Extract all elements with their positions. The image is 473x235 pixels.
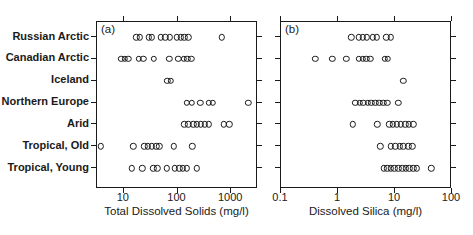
data-point-circle — [210, 99, 217, 106]
data-point-circle — [348, 34, 355, 41]
data-point-circle — [148, 34, 155, 41]
data-point-circle — [312, 56, 319, 63]
category-tick — [91, 123, 96, 124]
data-point-circle — [97, 143, 104, 150]
x-axis-tick-label: 0.1 — [272, 191, 287, 203]
category-tick — [257, 102, 262, 103]
panel-b-plot-area: (b) — [280, 21, 451, 188]
data-point-circle — [226, 121, 233, 128]
data-point-circle — [349, 121, 356, 128]
category-tick — [257, 167, 262, 168]
x-axis-tick-label: 10 — [388, 191, 400, 203]
data-point-circle — [140, 56, 147, 63]
data-point-circle — [185, 34, 192, 41]
x-axis-tick — [394, 16, 395, 21]
category-tick — [91, 58, 96, 59]
x-axis-tick-label: 10 — [117, 191, 129, 203]
category-tick — [275, 167, 280, 168]
category-tick — [91, 80, 96, 81]
x-axis-title-a: Total Dissolved Solids (mg/l) — [96, 205, 257, 217]
category-label: Arid — [0, 117, 89, 129]
data-point-circle — [168, 77, 175, 84]
data-point-circle — [164, 165, 171, 172]
category-tick — [91, 36, 96, 37]
category-tick — [275, 58, 280, 59]
data-point-circle — [194, 165, 201, 172]
category-tick — [275, 123, 280, 124]
data-point-circle — [409, 143, 416, 150]
strip-plot-figure: Russian ArcticCanadian ArcticIcelandNort… — [0, 0, 473, 235]
data-point-circle — [150, 56, 157, 63]
category-tick — [91, 145, 96, 146]
data-point-circle — [189, 99, 196, 106]
data-point-circle — [128, 165, 135, 172]
data-point-circle — [377, 143, 384, 150]
data-point-circle — [374, 121, 381, 128]
x-axis-tick — [337, 16, 338, 21]
data-point-circle — [205, 121, 212, 128]
panel-b-letter: (b) — [285, 23, 299, 35]
data-point-circle — [154, 165, 161, 172]
category-label: Tropical, Young — [0, 161, 89, 173]
x-axis-tick-label: 100 — [167, 191, 185, 203]
category-tick — [257, 145, 262, 146]
x-axis-tick — [230, 16, 231, 21]
data-point-circle — [400, 77, 407, 84]
x-axis-tick-label: 1000 — [218, 191, 242, 203]
data-point-circle — [156, 143, 163, 150]
data-point-circle — [343, 56, 350, 63]
category-tick — [257, 80, 262, 81]
data-point-circle — [410, 121, 417, 128]
category-tick — [257, 36, 262, 37]
data-point-circle — [367, 56, 374, 63]
data-point-circle — [183, 165, 190, 172]
data-point-circle — [166, 34, 173, 41]
category-label: Russian Arctic — [0, 30, 89, 42]
category-label: Iceland — [0, 73, 89, 85]
data-point-circle — [428, 165, 435, 172]
category-tick — [451, 58, 456, 59]
panel-a-plot-area: (a) — [96, 21, 257, 188]
category-tick — [91, 102, 96, 103]
data-point-circle — [166, 56, 173, 63]
category-tick — [451, 145, 456, 146]
data-point-circle — [245, 99, 252, 106]
category-tick — [257, 123, 262, 124]
category-tick — [451, 123, 456, 124]
data-point-circle — [413, 165, 420, 172]
x-axis-tick — [280, 16, 281, 21]
category-tick — [275, 80, 280, 81]
x-axis-tick — [123, 16, 124, 21]
x-axis-tick-label: 1 — [334, 191, 340, 203]
category-tick — [91, 167, 96, 168]
category-tick — [257, 58, 262, 59]
category-label: Tropical, Old — [0, 139, 89, 151]
data-point-circle — [171, 143, 178, 150]
x-axis-tick — [451, 16, 452, 21]
x-axis-tick — [177, 16, 178, 21]
data-point-circle — [125, 56, 132, 63]
data-point-circle — [197, 99, 204, 106]
data-point-circle — [189, 143, 196, 150]
data-point-circle — [137, 34, 144, 41]
category-tick — [451, 36, 456, 37]
category-tick — [451, 102, 456, 103]
data-point-circle — [395, 99, 402, 106]
category-label: Canadian Arctic — [0, 51, 89, 63]
data-point-circle — [387, 34, 394, 41]
category-tick — [275, 102, 280, 103]
data-point-circle — [329, 56, 336, 63]
data-point-circle — [219, 34, 226, 41]
data-point-circle — [385, 56, 392, 63]
x-axis-tick-label: 100 — [442, 191, 460, 203]
category-tick — [275, 145, 280, 146]
data-point-circle — [384, 99, 391, 106]
data-point-circle — [374, 34, 381, 41]
category-tick — [451, 167, 456, 168]
panel-a-letter: (a) — [101, 23, 115, 35]
x-axis-title-b: Dissolved Silica (mg/l) — [280, 205, 451, 217]
category-label: Northern Europe — [0, 95, 89, 107]
data-point-circle — [188, 56, 195, 63]
data-point-circle — [130, 143, 137, 150]
data-point-circle — [139, 165, 146, 172]
